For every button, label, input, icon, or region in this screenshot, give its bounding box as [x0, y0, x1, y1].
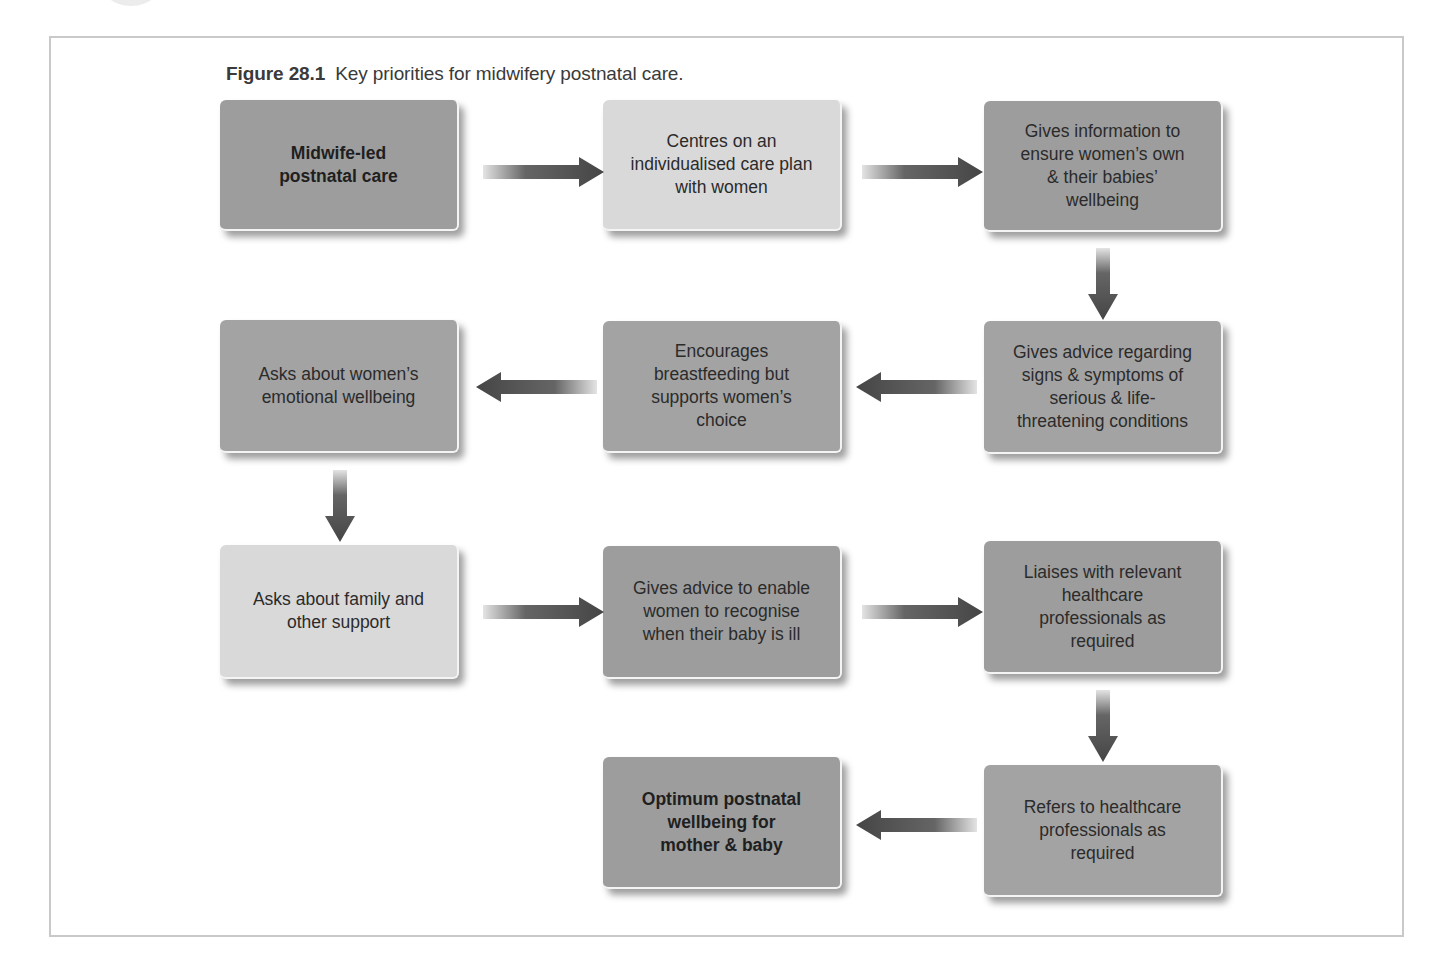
- node-text-line: wellbeing: [1020, 189, 1184, 212]
- node-text-line: Asks about family and: [253, 588, 424, 611]
- node-text-line: Centres on an: [631, 130, 813, 153]
- node-text-line: individualised care plan: [631, 153, 813, 176]
- node-text-line: signs & symptoms of: [1013, 364, 1192, 387]
- node-text-line: with women: [631, 176, 813, 199]
- arrow-right-icon: [862, 597, 983, 627]
- node-text-line: professionals as: [1024, 607, 1182, 630]
- arrow-left-icon: [856, 810, 977, 840]
- decorative-arc: [96, 0, 166, 6]
- node-emotional-wellbeing: Asks about women’semotional wellbeing: [220, 320, 459, 453]
- node-text-line: supports women’s: [651, 386, 792, 409]
- figure-number: Figure 28.1: [226, 63, 325, 84]
- arrow-left-icon: [476, 372, 597, 402]
- arrow-down-icon: [1088, 690, 1118, 762]
- node-liaises-professionals: Liaises with relevanthealthcareprofessio…: [984, 541, 1223, 674]
- node-text-line: mother & baby: [642, 834, 801, 857]
- node-recognise-ill-baby: Gives advice to enablewomen to recognise…: [603, 546, 842, 679]
- node-text-line: Gives advice to enable: [633, 577, 810, 600]
- node-text-line: emotional wellbeing: [258, 386, 418, 409]
- node-optimum-wellbeing: Optimum postnatalwellbeing formother & b…: [603, 757, 842, 889]
- node-text-line: when their baby is ill: [633, 623, 810, 646]
- node-text-line: professionals as: [1024, 819, 1182, 842]
- node-text-line: women to recognise: [633, 600, 810, 623]
- node-refers-professionals: Refers to healthcareprofessionals asrequ…: [984, 765, 1223, 897]
- node-text-line: other support: [253, 611, 424, 634]
- node-text-line: serious & life-: [1013, 387, 1192, 410]
- node-text-line: Asks about women’s: [258, 363, 418, 386]
- arrow-down-icon: [325, 470, 355, 542]
- arrow-down-icon: [1088, 248, 1118, 320]
- node-family-support: Asks about family andother support: [220, 545, 459, 679]
- node-text-line: & their babies’: [1020, 166, 1184, 189]
- node-text-line: Midwife-led: [279, 142, 398, 165]
- arrow-right-icon: [483, 597, 604, 627]
- node-text-line: threatening conditions: [1013, 410, 1192, 433]
- node-text-line: required: [1024, 842, 1182, 865]
- node-text-line: required: [1024, 630, 1182, 653]
- node-text-line: postnatal care: [279, 165, 398, 188]
- node-text-line: Gives advice regarding: [1013, 341, 1192, 364]
- node-text-line: breastfeeding but: [651, 363, 792, 386]
- figure-caption: Figure 28.1Key priorities for midwifery …: [226, 63, 684, 85]
- node-text-line: healthcare: [1024, 584, 1182, 607]
- node-text-line: Liaises with relevant: [1024, 561, 1182, 584]
- arrow-right-icon: [483, 157, 604, 187]
- node-text-line: Refers to healthcare: [1024, 796, 1182, 819]
- node-text-line: choice: [651, 409, 792, 432]
- node-text-line: wellbeing for: [642, 811, 801, 834]
- arrow-left-icon: [856, 372, 977, 402]
- node-individualised-care-plan: Centres on anindividualised care planwit…: [603, 100, 842, 231]
- node-text-line: Encourages: [651, 340, 792, 363]
- figure-title: Key priorities for midwifery postnatal c…: [335, 63, 683, 84]
- node-gives-information: Gives information toensure women’s own& …: [984, 101, 1223, 232]
- arrow-right-icon: [862, 157, 983, 187]
- node-encourages-breastfeeding: Encouragesbreastfeeding butsupports wome…: [603, 321, 842, 453]
- node-signs-symptoms-advice: Gives advice regardingsigns & symptoms o…: [984, 321, 1223, 454]
- node-midwife-led-care: Midwife-ledpostnatal care: [220, 100, 459, 231]
- node-text-line: Gives information to: [1020, 120, 1184, 143]
- node-text-line: Optimum postnatal: [642, 788, 801, 811]
- node-text-line: ensure women’s own: [1020, 143, 1184, 166]
